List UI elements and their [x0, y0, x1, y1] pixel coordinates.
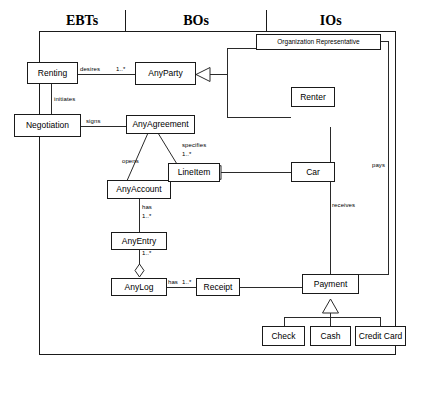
- edge-label-initiates: initiates: [54, 96, 75, 103]
- diagram-canvas: EBTs BOs IOs desires 1..* initiates sign…: [0, 0, 437, 393]
- node-anyentry[interactable]: AnyEntry: [111, 232, 167, 250]
- edge-label-has-entry-multiplicity: 1..*: [142, 213, 151, 220]
- node-anylog[interactable]: AnyLog: [111, 278, 167, 296]
- edge-label-anylog-multiplicity: 1..*: [142, 250, 151, 257]
- node-car[interactable]: Car: [291, 162, 335, 182]
- edge-anyparty-generalization-bus: [227, 48, 228, 118]
- column-header-ebts: EBTs: [39, 10, 126, 32]
- edge-creditcard-riser: [380, 317, 381, 326]
- edge-payment-subclass-bus: [284, 317, 380, 318]
- edge-label-signs: signs: [86, 118, 101, 125]
- node-credit-card[interactable]: Credit Card: [355, 326, 406, 346]
- edge-orgrep-payment: [388, 41, 389, 274]
- edge-label-specifies-multiplicity: 1..*: [182, 151, 191, 158]
- node-cash[interactable]: Cash: [310, 326, 351, 346]
- edge-label-specifies: specifies: [182, 142, 206, 149]
- edge-negotiation-anyagreement: [81, 126, 126, 127]
- node-payment[interactable]: Payment: [302, 274, 359, 294]
- node-anyagreement[interactable]: AnyAgreement: [126, 115, 195, 134]
- edge-renter-to-bus: [227, 117, 291, 118]
- edge-orgrep-payment-bottom: [359, 274, 389, 275]
- edge-label-has-receipt: has: [168, 279, 178, 286]
- column-header-bos: BOs: [126, 10, 267, 32]
- edge-label-opens: opens: [122, 158, 139, 165]
- node-check[interactable]: Check: [262, 326, 305, 346]
- edge-label-has-entry: has: [142, 204, 152, 211]
- edge-orgrep-payment-top: [381, 41, 388, 42]
- column-header-ios: IOs: [267, 10, 395, 32]
- column-header-row: EBTs BOs IOs: [39, 10, 396, 32]
- generalization-arrow-anyparty: [196, 67, 211, 82]
- edge-cash-riser: [330, 317, 331, 326]
- node-anyaccount[interactable]: AnyAccount: [107, 180, 171, 199]
- edge-label-has-receipt-multiplicity: 1..*: [182, 279, 191, 286]
- node-renter[interactable]: Renter: [291, 87, 335, 107]
- node-lineitem[interactable]: LineItem: [168, 163, 220, 182]
- edge-renting-negotiation: [51, 84, 52, 118]
- edge-label-desires: desires: [80, 66, 100, 73]
- edge-label-desires-multiplicity: 1..*: [116, 66, 125, 73]
- node-renting[interactable]: Renting: [27, 62, 78, 84]
- edge-check-riser: [284, 317, 285, 326]
- edge-renting-anyparty: [78, 74, 136, 75]
- edge-anylog-receipt: [167, 287, 196, 288]
- edge-label-pays: pays: [372, 162, 385, 169]
- node-anyparty[interactable]: AnyParty: [135, 62, 196, 85]
- edge-anyaccount-anyentry: [139, 199, 140, 232]
- node-organization-representative[interactable]: Organization Representative: [256, 34, 381, 50]
- edge-label-receives: receives: [332, 202, 355, 209]
- generalization-arrow-payment: [322, 299, 339, 314]
- edge-orgrep-to-bus: [227, 48, 256, 49]
- node-receipt[interactable]: Receipt: [196, 278, 240, 296]
- edge-renter-payment: [330, 127, 331, 287]
- aggregation-diamond-anylog: [134, 264, 145, 278]
- diagram-frame: [39, 10, 396, 355]
- node-negotiation[interactable]: Negotiation: [14, 114, 81, 137]
